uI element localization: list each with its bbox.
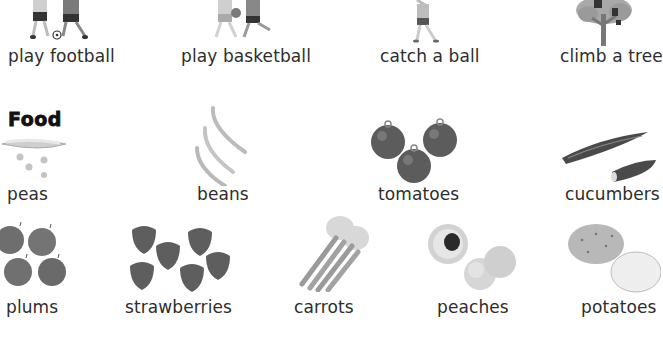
cucumbers-icon	[560, 130, 660, 184]
food-label: strawberries	[125, 297, 232, 317]
food-label: peas	[7, 184, 48, 204]
children-playing-basketball-icon	[210, 0, 280, 42]
strawberries-icon	[128, 218, 234, 292]
food-label: beans	[197, 184, 249, 204]
food-label: cucumbers	[565, 184, 660, 204]
tomatoes-icon	[368, 118, 464, 184]
peaches-icon	[426, 224, 522, 290]
child-climbing-tree-icon	[574, 0, 634, 48]
potatoes-icon	[566, 222, 661, 294]
activity-label: climb a tree	[560, 46, 663, 66]
activity-label: catch a ball	[380, 46, 480, 66]
plums-icon	[0, 222, 68, 290]
food-label: potatoes	[581, 297, 656, 317]
peas-pod-icon	[0, 134, 70, 184]
carrots-icon	[296, 214, 372, 292]
activity-label: play basketball	[181, 46, 311, 66]
child-catching-ball-icon	[405, 0, 445, 44]
children-playing-football-icon	[25, 0, 95, 42]
food-label: plums	[6, 297, 58, 317]
food-label: carrots	[294, 297, 354, 317]
food-label: peaches	[437, 297, 509, 317]
green-beans-icon	[193, 106, 253, 186]
food-label: tomatoes	[378, 184, 459, 204]
activity-label: play football	[8, 46, 115, 66]
food-section-heading: Food	[8, 108, 62, 130]
